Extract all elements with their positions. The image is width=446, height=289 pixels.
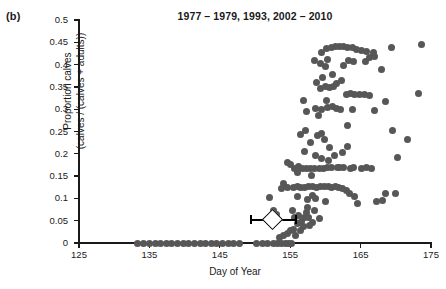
data-point [300, 97, 307, 104]
data-point [318, 49, 325, 56]
data-point [284, 159, 291, 166]
y-tick-label: 0.1 [55, 192, 68, 203]
panel-label: (b) [6, 10, 21, 22]
data-point [326, 144, 333, 151]
data-point [378, 66, 385, 73]
data-point [394, 154, 401, 161]
data-point [370, 49, 377, 56]
x-tick [78, 244, 79, 248]
data-point [329, 71, 336, 78]
y-tick-label: 0.05 [50, 215, 69, 226]
figure-panel: (b) 1977 – 1979, 1993, 2002 – 2010 00.05… [0, 0, 446, 289]
y-tick-label: 0.15 [50, 170, 69, 181]
data-point [382, 190, 389, 197]
data-point [343, 91, 350, 98]
data-point [302, 127, 309, 134]
y-tick-label: 0 [63, 237, 68, 248]
x-axis-label: Day of Year [155, 266, 315, 277]
x-tick-label: 165 [341, 249, 381, 260]
x-tick-label: 125 [59, 249, 99, 260]
data-point [337, 106, 344, 113]
y-tick [74, 175, 78, 176]
data-point [321, 136, 328, 143]
data-point [301, 148, 308, 155]
y-tick [74, 198, 78, 199]
x-tick-label: 175 [411, 249, 446, 260]
data-point [404, 136, 411, 143]
error-bar-cap [295, 215, 297, 224]
data-point [392, 190, 399, 197]
x-tick-label: 145 [200, 249, 240, 260]
data-point [308, 172, 315, 179]
data-point [303, 108, 310, 115]
data-point [318, 155, 325, 162]
data-point [319, 74, 326, 81]
data-point [236, 240, 243, 247]
data-point [371, 107, 378, 114]
data-point [266, 194, 273, 201]
data-point [289, 207, 296, 214]
x-tick [430, 244, 431, 248]
x-tick [360, 244, 361, 248]
data-point [361, 91, 368, 98]
data-point [324, 56, 331, 63]
data-point [338, 77, 345, 84]
data-point [315, 112, 322, 119]
data-point [344, 122, 351, 129]
data-point [322, 198, 329, 205]
data-point [389, 127, 396, 134]
x-tick-label: 155 [270, 249, 310, 260]
data-point [349, 106, 356, 113]
data-point [316, 215, 323, 222]
error-bar-cap [250, 215, 252, 224]
data-point [379, 197, 386, 204]
data-point [307, 139, 314, 146]
data-point [339, 149, 346, 156]
data-point [382, 98, 389, 105]
x-tick-label: 135 [129, 249, 169, 260]
data-point [388, 44, 395, 51]
data-point [415, 90, 422, 97]
data-point [323, 97, 330, 104]
mean-diamond-marker [262, 209, 283, 230]
data-point [350, 58, 357, 65]
data-point [344, 143, 351, 150]
y-tick [74, 220, 78, 221]
data-point [294, 169, 301, 176]
data-point [331, 152, 338, 159]
data-point [311, 207, 318, 214]
data-point [311, 57, 318, 64]
data-point [350, 164, 357, 171]
data-point [336, 164, 343, 171]
data-point [304, 204, 311, 211]
data-point [306, 222, 313, 229]
data-point [317, 60, 324, 67]
data-point [418, 41, 425, 48]
data-point [312, 195, 319, 202]
data-point [288, 240, 295, 247]
data-point [354, 200, 361, 207]
data-point [318, 130, 325, 137]
y-axis-label-line1: Proportion calves [61, 11, 74, 171]
data-point [294, 193, 301, 200]
plot-area [79, 20, 431, 243]
